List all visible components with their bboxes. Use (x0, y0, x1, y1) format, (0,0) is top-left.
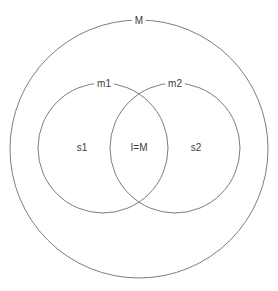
venn-diagram: M m1 m2 s1 I=M s2 (0, 0, 278, 291)
label-region-intersection: I=M (131, 143, 148, 153)
label-set-m2: m2 (165, 78, 185, 90)
label-region-s1: s1 (77, 143, 88, 153)
label-region-s2: s2 (191, 143, 202, 153)
circle-m2 (110, 83, 240, 213)
circle-m1 (38, 83, 168, 213)
label-set-m1: m1 (94, 78, 114, 90)
label-outer-set-M: M (132, 15, 146, 27)
